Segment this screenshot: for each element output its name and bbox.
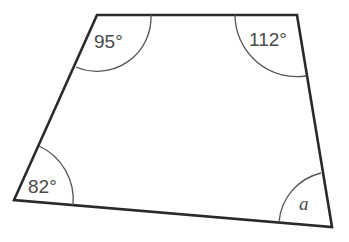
quadrilateral-diagram: 95° 112° 82° a (0, 0, 349, 242)
angle-label-bottom-right: a (299, 193, 309, 214)
angle-label-top-left: 95° (94, 31, 123, 52)
angle-label-bottom-left: 82° (28, 176, 57, 197)
angle-label-top-right: 112° (249, 29, 287, 50)
